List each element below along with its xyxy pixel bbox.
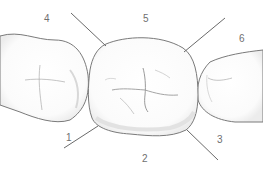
label-4: 4 bbox=[44, 14, 50, 24]
leader-line-4 bbox=[71, 13, 106, 46]
left-tooth bbox=[0, 34, 88, 122]
tooth-illustration bbox=[0, 0, 263, 175]
label-5: 5 bbox=[143, 14, 149, 24]
central-molar bbox=[88, 38, 198, 136]
right-tooth bbox=[198, 50, 264, 122]
leader-line-3 bbox=[187, 130, 218, 160]
tooth-diagram: 1 2 3 4 5 6 bbox=[0, 0, 263, 175]
label-1: 1 bbox=[66, 133, 72, 143]
label-2: 2 bbox=[142, 154, 148, 164]
leader-line-6 bbox=[184, 18, 225, 52]
label-6: 6 bbox=[239, 34, 245, 44]
label-3: 3 bbox=[217, 135, 223, 145]
